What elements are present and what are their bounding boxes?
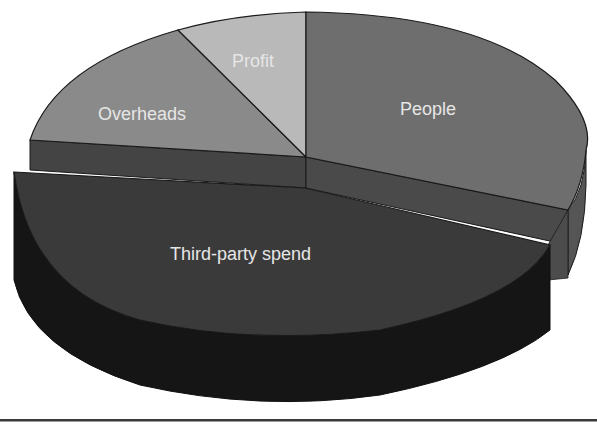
bottom-rule-divider (0, 419, 597, 422)
label-third-party-spend: Third-party spend (170, 244, 311, 264)
label-overheads: Overheads (98, 104, 186, 124)
pie-chart-3d: Profit Overheads People Third-party spen… (0, 0, 597, 425)
label-profit: Profit (232, 51, 274, 71)
label-people: People (400, 99, 456, 119)
